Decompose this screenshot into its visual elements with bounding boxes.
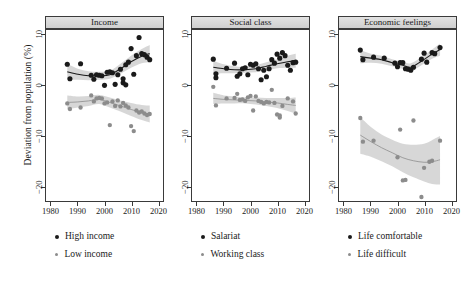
panel-title-strip-2: Economic feelings bbox=[338, 16, 457, 29]
panel-economic-feelings: Economic feelings 100−10−20 198019902000… bbox=[315, 16, 457, 216]
y-axis-2: 100−10−20 bbox=[315, 29, 338, 202]
y-tick-label: 0 bbox=[181, 83, 190, 87]
legend-label: Working class bbox=[210, 250, 264, 260]
x-axis-1: 19801990200020102020 bbox=[191, 202, 310, 230]
legend-item: Working class bbox=[201, 250, 264, 260]
y-tick-label: −20 bbox=[328, 180, 337, 193]
plot-area-2 bbox=[338, 29, 457, 202]
x-tick-label: 2000 bbox=[96, 207, 113, 216]
plot-svg-1 bbox=[192, 30, 309, 201]
y-tick-label: 10 bbox=[181, 30, 190, 39]
legend-marker-icon bbox=[348, 235, 352, 239]
x-tick-label: 2010 bbox=[123, 207, 140, 216]
x-tick-label: 2010 bbox=[269, 207, 286, 216]
x-tick-label: 1980 bbox=[335, 207, 352, 216]
legend-label: Life difficult bbox=[357, 250, 406, 260]
y-axis-0: 100−10−20 bbox=[22, 29, 45, 202]
x-tick-label: 1990 bbox=[69, 207, 86, 216]
y-tick-label: 10 bbox=[35, 30, 44, 39]
x-tick-label: 1980 bbox=[42, 207, 59, 216]
x-tick-label: 2020 bbox=[150, 207, 167, 216]
y-tick-label: −20 bbox=[35, 180, 44, 193]
x-tick-label: 2020 bbox=[443, 207, 460, 216]
x-tick-label: 2010 bbox=[416, 207, 433, 216]
y-tick-label: −10 bbox=[328, 129, 337, 142]
legend-label: Low income bbox=[64, 250, 112, 260]
y-axis-1: 100−10−20 bbox=[168, 29, 191, 202]
panel-title-2: Economic feelings bbox=[364, 18, 431, 27]
legend-item: Life difficult bbox=[348, 250, 406, 260]
panel-social-class: Social class 100−10−20 19801990200020102… bbox=[168, 16, 310, 216]
legend-marker-icon bbox=[201, 235, 205, 239]
legend-item: Low income bbox=[55, 250, 112, 260]
x-tick-label: 1990 bbox=[215, 207, 232, 216]
panel-title-0: Income bbox=[91, 18, 118, 27]
x-axis-2: 19801990200020102020 bbox=[338, 202, 457, 230]
x-tick-label: 1990 bbox=[362, 207, 379, 216]
legend-item: Salariat bbox=[201, 232, 240, 242]
plot-svg-0 bbox=[46, 30, 163, 201]
plot-area-1 bbox=[191, 29, 310, 202]
y-tick-label: 0 bbox=[328, 83, 337, 87]
x-tick-label: 2020 bbox=[296, 207, 313, 216]
x-tick-label: 1980 bbox=[188, 207, 205, 216]
y-tick-label: −10 bbox=[181, 129, 190, 142]
legend-social-class: Salariat Working class bbox=[168, 230, 310, 276]
legend-item: Life comfortable bbox=[348, 232, 422, 242]
panel-title-strip-0: Income bbox=[45, 16, 164, 29]
legend-marker-icon bbox=[201, 253, 204, 256]
legend-economic-feelings: Life comfortable Life difficult bbox=[315, 230, 462, 276]
chart-figure: Deviation from population (%) Income 100… bbox=[0, 0, 467, 282]
panel-title-strip-1: Social class bbox=[191, 16, 310, 29]
x-tick-label: 2000 bbox=[389, 207, 406, 216]
plot-svg-2 bbox=[339, 30, 456, 201]
y-tick-label: 10 bbox=[328, 30, 337, 39]
legend-income: High income Low income bbox=[22, 230, 164, 276]
y-tick-label: −20 bbox=[181, 180, 190, 193]
x-axis-0: 19801990200020102020 bbox=[45, 202, 164, 230]
y-tick-label: −10 bbox=[35, 129, 44, 142]
legend-label: Life comfortable bbox=[358, 232, 422, 242]
panel-title-1: Social class bbox=[229, 18, 271, 27]
legend-label: Salariat bbox=[211, 232, 240, 242]
legend-item: High income bbox=[55, 232, 114, 242]
legend-label: High income bbox=[65, 232, 114, 242]
legend-marker-icon bbox=[55, 253, 58, 256]
plot-area-0 bbox=[45, 29, 164, 202]
panel-income: Income 100−10−20 19801990200020102020 bbox=[22, 16, 164, 216]
legend-marker-icon bbox=[348, 253, 351, 256]
x-tick-label: 2000 bbox=[242, 207, 259, 216]
legend-marker-icon bbox=[55, 235, 59, 239]
y-tick-label: 0 bbox=[35, 83, 44, 87]
